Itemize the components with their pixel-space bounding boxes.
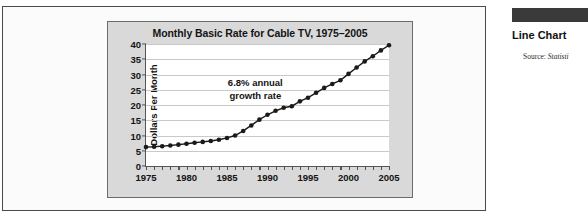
x-axis-tick xyxy=(340,166,341,170)
x-axis-tick xyxy=(227,166,228,170)
x-axis-tick xyxy=(170,166,171,170)
y-axis-tick-label: 5 xyxy=(136,145,141,156)
y-axis-tick-label: 35 xyxy=(130,54,141,65)
y-axis-tick-label: 20 xyxy=(130,100,141,111)
x-axis-tick xyxy=(195,166,196,170)
data-series xyxy=(146,44,389,166)
x-axis-tick xyxy=(203,166,204,170)
chart-container: Monthly Basic Rate for Cable TV, 1975–20… xyxy=(107,21,413,198)
source-prefix: Source: xyxy=(523,52,546,61)
x-axis-tick xyxy=(324,166,325,170)
x-axis-tick xyxy=(276,166,277,170)
x-axis-tick xyxy=(389,166,390,170)
x-axis-tick xyxy=(146,166,147,170)
x-axis-tick xyxy=(292,166,293,170)
x-axis-tick xyxy=(357,166,358,170)
y-axis-tick-label: 0 xyxy=(136,161,141,172)
y-axis-tick-label: 15 xyxy=(130,115,141,126)
y-axis-tick-label: 30 xyxy=(130,69,141,80)
x-axis-tick xyxy=(243,166,244,170)
figure-panel: Monthly Basic Rate for Cable TV, 1975–20… xyxy=(2,6,486,211)
x-axis-tick-label: 2005 xyxy=(378,172,399,183)
x-axis-tick-label: 1975 xyxy=(135,172,156,183)
x-axis-tick xyxy=(178,166,179,170)
y-axis-tick-label: 10 xyxy=(130,130,141,141)
x-axis-tick xyxy=(235,166,236,170)
x-axis-tick xyxy=(162,166,163,170)
x-axis-tick xyxy=(154,166,155,170)
x-axis-tick xyxy=(381,166,382,170)
growth-rate-annotation: 6.8% annualgrowth rate xyxy=(228,77,283,103)
sidebar: Line Chart Source: Statisti xyxy=(504,0,581,223)
sidebar-heading: Line Chart xyxy=(512,29,566,41)
x-axis-tick xyxy=(211,166,212,170)
chart-title: Monthly Basic Rate for Cable TV, 1975–20… xyxy=(108,27,412,39)
x-axis-tick xyxy=(332,166,333,170)
x-axis-tick xyxy=(300,166,301,170)
x-axis-tick xyxy=(268,166,269,170)
annotation-line-1: 6.8% annual xyxy=(228,77,283,90)
source-body: Statisti xyxy=(548,52,569,61)
x-axis-tick-label: 1990 xyxy=(257,172,278,183)
x-axis-tick-label: 1985 xyxy=(216,172,237,183)
x-axis-tick xyxy=(187,166,188,170)
plot-area: Dollars Per Month 0510152025303540197519… xyxy=(145,44,389,167)
x-axis-tick xyxy=(284,166,285,170)
x-axis-tick-label: 1980 xyxy=(176,172,197,183)
sidebar-banner xyxy=(512,8,588,22)
annotation-line-2: growth rate xyxy=(228,90,283,103)
y-axis-tick-label: 25 xyxy=(130,84,141,95)
x-axis-tick xyxy=(365,166,366,170)
sidebar-source: Source: Statisti xyxy=(523,52,569,61)
x-axis-tick xyxy=(349,166,350,170)
x-axis-tick xyxy=(373,166,374,170)
x-axis-tick xyxy=(251,166,252,170)
x-axis-tick xyxy=(259,166,260,170)
x-axis-tick-label: 1995 xyxy=(297,172,318,183)
y-axis-tick-label: 40 xyxy=(130,39,141,50)
x-axis-tick xyxy=(219,166,220,170)
x-axis-tick-label: 2000 xyxy=(338,172,359,183)
x-axis-tick xyxy=(308,166,309,170)
x-axis-tick xyxy=(316,166,317,170)
